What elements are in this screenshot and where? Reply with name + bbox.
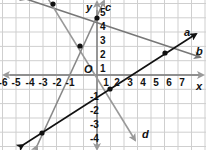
svg-text:6: 6 [166, 77, 172, 88]
svg-text:-6: -6 [0, 77, 8, 88]
line-d-label: d [142, 128, 149, 140]
svg-text:1: 1 [100, 63, 106, 74]
svg-text:-3: -3 [39, 77, 48, 88]
svg-text:1: 1 [103, 77, 109, 88]
point-0-4 [94, 15, 99, 20]
svg-text:-1: -1 [66, 77, 75, 88]
svg-text:3: 3 [100, 35, 106, 46]
svg-text:2: 2 [100, 49, 106, 60]
svg-text:-4: -4 [26, 77, 35, 88]
origin-label: O [84, 63, 93, 75]
svg-text:5: 5 [153, 77, 159, 88]
svg-text:2: 2 [114, 77, 120, 88]
x-tick-labels: -6 -5 -4 -3 -2 -1 1 2 3 4 5 6 7 [0, 77, 185, 88]
svg-text:4: 4 [140, 77, 146, 88]
svg-text:-2: -2 [53, 77, 62, 88]
svg-text:7: 7 [179, 77, 185, 88]
point-neg4-neg4 [39, 130, 44, 135]
coordinate-graph: -6 -5 -4 -3 -2 -1 1 2 3 4 5 6 7 5 4 3 2 … [0, 0, 206, 150]
point-6-2 [162, 50, 167, 55]
svg-text:-3: -3 [90, 119, 99, 130]
line-c-label: c [105, 1, 111, 13]
svg-text:-5: -5 [12, 77, 21, 88]
svg-text:-1: -1 [90, 91, 99, 102]
svg-text:-2: -2 [90, 105, 99, 116]
y-axis-label: y [85, 1, 93, 13]
line-b-label: b [196, 45, 203, 57]
point-neg3-5 [50, 1, 55, 6]
x-axis-label: x [195, 80, 203, 92]
svg-text:3: 3 [127, 77, 133, 88]
point-neg1-2 [77, 43, 82, 48]
line-a-label: a [184, 26, 190, 38]
svg-text:4: 4 [100, 21, 106, 32]
svg-text:-4: -4 [90, 133, 99, 144]
